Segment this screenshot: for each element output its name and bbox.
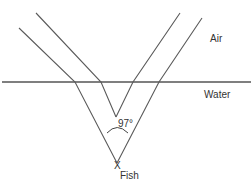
inner-left-ray (36, 13, 116, 117)
angle-label: 97° (118, 118, 133, 129)
air-label: Air (210, 33, 223, 44)
water-label: Water (204, 89, 231, 100)
outer-left-ray (19, 28, 117, 163)
outer-right-ray (117, 18, 202, 163)
fish-label: Fish (120, 170, 139, 181)
refraction-diagram: Air Water 97° X Fish (0, 0, 251, 181)
